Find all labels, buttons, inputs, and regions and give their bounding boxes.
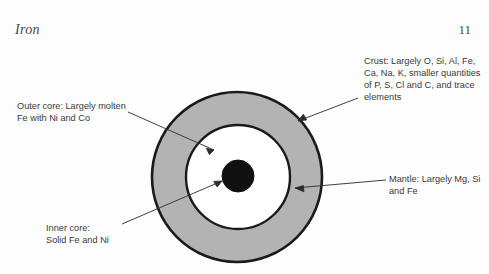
mantle-label: Mantle: Largely Mg, Si and Fe xyxy=(389,173,489,197)
crust-label: Crust: Largely O, Si, Al, Fe, Ca, Na, K,… xyxy=(364,55,486,103)
document-page: Iron 11 Crust: Largely O, Si, Al, xyxy=(0,0,489,274)
inner-core-label: Inner core: Solid Fe and Ni xyxy=(46,222,166,246)
inner-core-layer-circle xyxy=(222,160,254,192)
outer-core-label: Outer core: Largely molten Fe with Ni an… xyxy=(17,100,139,124)
crust-leader-line xyxy=(298,98,358,121)
